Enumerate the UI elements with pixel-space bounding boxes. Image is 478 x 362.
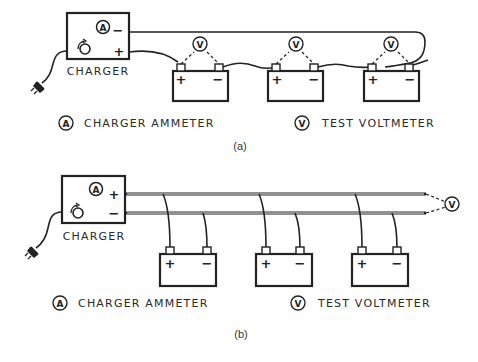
- battery-plus-label: +: [357, 256, 368, 271]
- battery-b1: + −: [160, 194, 216, 286]
- voltmeter-legend-label: TEST VOLTMETER: [317, 297, 431, 310]
- return-wire: [129, 32, 425, 67]
- positive-post: [177, 64, 185, 71]
- wire-charger-to-battery1: [129, 51, 178, 62]
- voltmeter-legend-symbol: V: [295, 299, 302, 309]
- battery-b2: + −: [256, 194, 312, 286]
- ammeter-legend-label: CHARGER AMMETER: [84, 117, 215, 130]
- caption-a: (a): [233, 140, 246, 152]
- ammeter-legend-symbol: A: [57, 299, 64, 309]
- battery-plus-label: +: [176, 72, 187, 87]
- diagram-a-series-connection: A − + CHARGER: [31, 13, 435, 152]
- charger-terminal-positive: +: [109, 187, 120, 202]
- battery-minus-label: −: [202, 256, 213, 271]
- charger-b: A + − CHARGER: [62, 176, 125, 243]
- wire-battery2-to-battery3: [318, 64, 372, 67]
- voltmeter-symbol: V: [388, 40, 395, 50]
- battery-a2: + − V: [268, 37, 323, 101]
- voltmeter-symbol: V: [449, 200, 456, 210]
- battery-plus-label: +: [272, 72, 283, 87]
- caption-b: (b): [234, 328, 247, 340]
- negative-post: [405, 64, 413, 71]
- charger-terminal-negative: −: [109, 206, 120, 221]
- battery-plus-label: +: [261, 256, 272, 271]
- ammeter-legend-symbol: A: [63, 119, 70, 129]
- charger-label: CHARGER: [63, 230, 126, 243]
- ammeter-legend-label: CHARGER AMMETER: [78, 297, 209, 310]
- ammeter-symbol: A: [93, 185, 100, 195]
- ammeter-symbol: A: [100, 23, 107, 33]
- battery-minus-label: −: [405, 72, 416, 87]
- battery-a3: + − V: [364, 37, 419, 101]
- legend-a: A CHARGER AMMETER V TEST VOLTMETER: [59, 116, 435, 130]
- wire-battery1-to-battery2: [223, 63, 277, 68]
- negative-post: [215, 64, 223, 71]
- negative-post: [310, 64, 318, 71]
- voltmeter-legend-label: TEST VOLTMETER: [321, 117, 435, 130]
- charger-a: A − + CHARGER: [67, 13, 130, 78]
- charger-label: CHARGER: [67, 65, 130, 78]
- positive-post: [272, 64, 280, 71]
- power-plug-icon: [25, 212, 62, 259]
- battery-b3: + −: [352, 194, 408, 286]
- negative-post: [393, 247, 401, 254]
- charger-terminal-positive: +: [114, 44, 125, 59]
- battery-minus-label: −: [295, 256, 306, 271]
- positive-post: [166, 247, 174, 254]
- battery-minus-label: −: [309, 72, 320, 87]
- battery-minus-label: −: [392, 256, 403, 271]
- positive-post: [262, 247, 270, 254]
- battery-plus-label: +: [368, 72, 379, 87]
- voltmeter-symbol: V: [197, 40, 204, 50]
- voltmeter-symbol: V: [293, 40, 300, 50]
- legend-b: A CHARGER AMMETER V TEST VOLTMETER: [53, 296, 431, 310]
- battery-plus-label: +: [165, 256, 176, 271]
- battery-minus-label: −: [213, 72, 224, 87]
- positive-post: [368, 64, 376, 71]
- negative-post: [203, 247, 211, 254]
- positive-post: [358, 247, 366, 254]
- negative-post: [296, 247, 304, 254]
- voltmeter-leads: [426, 194, 446, 213]
- diagram-b-parallel-connection: A + − CHARGER V: [25, 176, 459, 340]
- battery-a1: + − V: [173, 37, 228, 101]
- charger-terminal-negative: −: [113, 23, 124, 38]
- power-plug-icon: [31, 51, 67, 94]
- voltmeter-legend-symbol: V: [299, 119, 306, 129]
